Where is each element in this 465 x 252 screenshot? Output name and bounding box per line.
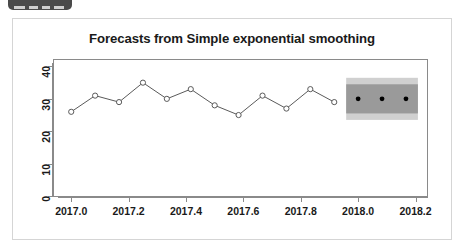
plot-area bbox=[53, 59, 428, 197]
toolbar-glyph-2 bbox=[29, 6, 38, 9]
data-point-observed-6 bbox=[212, 103, 217, 108]
x-tick-label-2018.0: 2018.0 bbox=[342, 205, 374, 217]
x-tick-label-2017.0: 2017.0 bbox=[55, 205, 87, 217]
x-tick-mark bbox=[243, 197, 244, 202]
toolbar-chip[interactable] bbox=[8, 0, 72, 10]
data-point-observed-9 bbox=[284, 106, 289, 111]
data-point-observed-0 bbox=[69, 109, 74, 114]
toolbar-glyph-1 bbox=[14, 6, 25, 9]
y-tick-label: 30 bbox=[40, 99, 52, 111]
data-point-observed-2 bbox=[116, 99, 121, 104]
x-tick-label-2017.4: 2017.4 bbox=[170, 205, 202, 217]
data-point-observed-11 bbox=[332, 99, 337, 104]
x-tick-mark bbox=[358, 197, 359, 202]
toolbar-chip-glyphs bbox=[14, 0, 64, 9]
data-point-forecast-1 bbox=[380, 96, 385, 101]
x-axis: 2017.02017.22017.42017.62017.82018.02018… bbox=[53, 197, 428, 227]
y-tick-label: 40 bbox=[40, 66, 52, 78]
plot-svg bbox=[54, 60, 427, 196]
x-tick-label-2017.8: 2017.8 bbox=[285, 205, 317, 217]
data-point-observed-4 bbox=[164, 96, 169, 101]
x-tick-label-2017.6: 2017.6 bbox=[227, 205, 259, 217]
x-tick-label-2018.2: 2018.2 bbox=[399, 205, 431, 217]
chart-card: Forecasts from Simple exponential smooth… bbox=[12, 18, 452, 240]
x-tick-mark bbox=[416, 197, 417, 202]
x-tick-mark bbox=[301, 197, 302, 202]
data-point-forecast-2 bbox=[404, 96, 409, 101]
toolbar-glyph-3 bbox=[42, 6, 50, 9]
y-tick-label: 0 bbox=[40, 196, 52, 202]
x-tick-mark bbox=[186, 197, 187, 202]
data-point-observed-1 bbox=[93, 93, 98, 98]
x-tick-mark bbox=[71, 197, 72, 202]
data-point-observed-5 bbox=[188, 87, 193, 92]
data-point-observed-3 bbox=[140, 80, 145, 85]
series-line-observed bbox=[71, 83, 334, 115]
y-tick-label: 20 bbox=[40, 131, 52, 143]
chart-title: Forecasts from Simple exponential smooth… bbox=[13, 31, 451, 46]
data-point-observed-7 bbox=[236, 112, 241, 117]
data-point-forecast-0 bbox=[356, 96, 361, 101]
x-tick-mark bbox=[129, 197, 130, 202]
y-axis: 010203040 bbox=[39, 59, 53, 197]
data-point-observed-10 bbox=[308, 87, 313, 92]
data-point-observed-8 bbox=[260, 93, 265, 98]
x-tick-label-2017.2: 2017.2 bbox=[113, 205, 145, 217]
y-tick-label: 10 bbox=[40, 164, 52, 176]
toolbar-glyph-4 bbox=[54, 6, 64, 9]
